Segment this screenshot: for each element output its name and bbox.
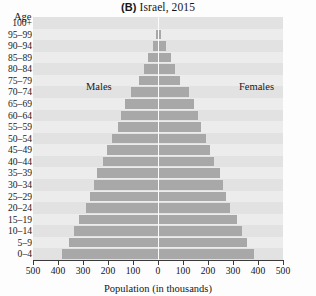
plot-area: Males Females (33, 17, 283, 260)
y-tick-label: 75–79 (0, 76, 32, 86)
chart-title-prefix: (B) (121, 1, 137, 13)
y-tick-label: 40–44 (0, 157, 32, 167)
bar-male (86, 203, 159, 213)
bar-female (158, 111, 198, 121)
bar-female (158, 180, 223, 190)
bar-male (90, 192, 158, 202)
bar-female (158, 145, 210, 155)
y-tick-label: 60–64 (0, 111, 32, 121)
bar-male (118, 122, 159, 132)
bar-female (158, 87, 189, 97)
bar-male (103, 157, 158, 167)
bar-male (148, 53, 159, 63)
y-tick-label: 95–99 (0, 30, 32, 40)
center-axis-line (158, 17, 159, 260)
y-tick-label: 5–9 (0, 238, 32, 248)
y-tick-label: 30–34 (0, 180, 32, 190)
y-tick-label: 65–69 (0, 99, 32, 109)
bar-female (158, 238, 247, 248)
bar-female (158, 134, 206, 144)
x-tick-label: 500 (268, 265, 298, 276)
bar-male (121, 111, 159, 121)
bar-male (69, 238, 159, 248)
chart-title: (B) Israel, 2015 (0, 1, 316, 13)
y-tick-label: 15–19 (0, 215, 32, 225)
bar-female (158, 192, 226, 202)
bar-male (125, 99, 158, 109)
series-label-females: Females (239, 81, 274, 92)
y-tick-label: 55–59 (0, 122, 32, 132)
y-tick-label: 35–39 (0, 168, 32, 178)
bar-female (158, 64, 175, 74)
bar-male (74, 226, 159, 236)
bar-male (112, 134, 158, 144)
bar-female (158, 168, 220, 178)
bar-female (158, 41, 166, 51)
series-label-males: Males (86, 81, 112, 92)
y-tick-label: 45–49 (0, 145, 32, 155)
bar-female (158, 122, 201, 132)
bar-female (158, 215, 237, 225)
bar-male (131, 87, 159, 97)
y-tick-label: 100+ (0, 18, 32, 28)
bar-female (158, 226, 242, 236)
bar-male (97, 168, 159, 178)
y-tick-label: 90–94 (0, 41, 32, 51)
y-tick-label: 25–29 (0, 192, 32, 202)
y-tick-label: 0–4 (0, 249, 32, 259)
bar-female (158, 99, 194, 109)
bar-male (94, 180, 159, 190)
y-tick-label: 10–14 (0, 226, 32, 236)
bar-female (158, 76, 180, 86)
bar-female (158, 249, 254, 259)
bar-female (158, 157, 214, 167)
y-tick-label: 80–84 (0, 64, 32, 74)
bar-male (139, 76, 158, 86)
bar-male (144, 64, 158, 74)
y-tick-label: 20–24 (0, 203, 32, 213)
bar-female (158, 53, 171, 63)
y-tick-label: 50–54 (0, 134, 32, 144)
bar-male (79, 215, 159, 225)
x-axis-title: Population (in thousands) (0, 283, 316, 294)
bar-male (62, 249, 158, 259)
chart-title-text: Israel, 2015 (140, 1, 196, 13)
y-tick-label: 85–89 (0, 53, 32, 63)
y-tick-label: 70–74 (0, 87, 32, 97)
x-axis-tick-labels: 5004003002001000100200300400500 (0, 265, 316, 279)
bar-female (158, 203, 230, 213)
y-axis-tick-labels: 100+95–9990–9485–8980–8475–7970–7465–696… (0, 17, 32, 260)
population-pyramid-chart: (B) Israel, 2015 Age 100+95–9990–9485–89… (0, 0, 316, 296)
bar-male (107, 145, 158, 155)
